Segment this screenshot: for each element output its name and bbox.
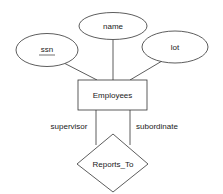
entity-employees: Employees xyxy=(78,80,147,110)
attribute-lot-label: lot xyxy=(171,43,180,52)
relationship-reports-to: Reports_To xyxy=(77,134,148,192)
role-supervisor-label: supervisor xyxy=(51,122,88,131)
attribute-ssn: ssn xyxy=(16,34,78,67)
edge-lot-employees xyxy=(130,61,162,80)
attribute-name: name xyxy=(79,13,147,40)
role-subordinate-label: subordinate xyxy=(136,122,178,131)
edge-ssn-employees xyxy=(62,62,97,80)
attribute-name-label: name xyxy=(103,22,124,31)
attribute-ssn-label: ssn xyxy=(41,45,53,54)
entity-employees-label: Employees xyxy=(93,91,133,100)
attribute-lot: lot xyxy=(142,31,208,63)
er-diagram: name ssn lot Employees supervisor subord… xyxy=(0,0,223,194)
relationship-reports-to-label: Reports_To xyxy=(93,160,134,169)
